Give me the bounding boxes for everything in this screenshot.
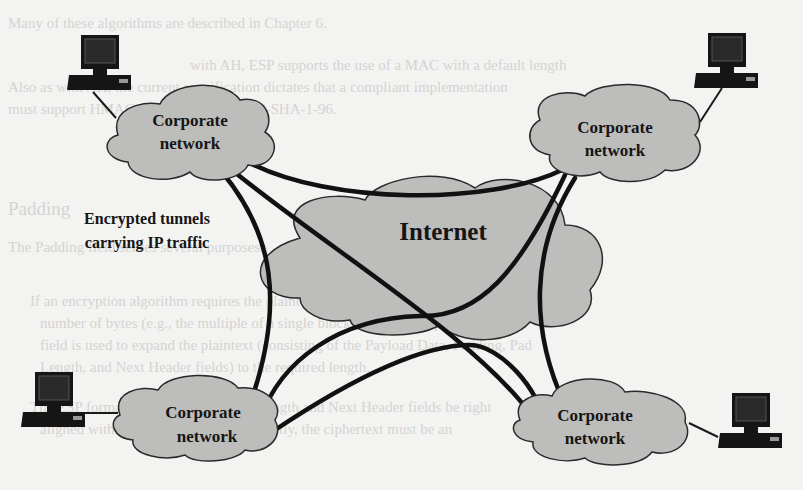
corporate-network-label: network [565,429,626,448]
annotation-line-1: Encrypted tunnels [84,210,210,228]
access-line-top-left [93,92,116,118]
access-line-bottom-right [689,423,718,437]
desktop-computer-icon [694,33,758,88]
corporate-network-label: network [177,427,238,446]
corporate-network-bottom-left: Corporate network [113,375,277,461]
corporate-network-bottom-right: Corporate network [513,379,687,465]
desktop-computer-icon [67,35,131,90]
network-diagram: Internet Corporate network Corporate net… [0,0,803,490]
access-line-top-right [700,88,722,122]
annotation-line-2: carrying IP traffic [85,234,209,252]
tunnel-annotation: Encrypted tunnels carrying IP traffic [84,210,210,252]
corporate-network-label: Corporate [577,118,653,137]
corporate-network-top-left: Corporate network [107,85,274,180]
corporate-network-label: Corporate [557,406,633,425]
corporate-network-label: network [585,141,646,160]
internet-label: Internet [399,218,487,245]
corporate-network-label: network [160,134,221,153]
desktop-computer-icon [21,372,85,427]
corporate-network-top-right: Corporate network [530,84,700,181]
tunnel-bl-br [275,345,545,430]
desktop-computer-icon [718,393,782,448]
corporate-network-label: Corporate [165,403,241,422]
corporate-network-label: Corporate [152,111,228,130]
